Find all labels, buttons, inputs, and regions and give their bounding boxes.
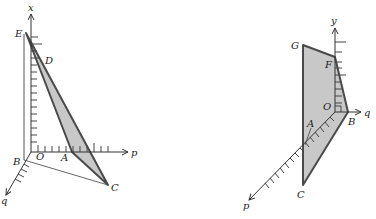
point-label-e: E: [14, 28, 23, 39]
diagram-canvas: x E D O A C B p q: [0, 0, 376, 219]
p-axis-label: p: [131, 147, 138, 158]
point-label-f: F: [324, 59, 333, 70]
point-label-d: D: [44, 55, 53, 66]
y-axis-label: y: [330, 15, 337, 26]
point-label-a: A: [60, 152, 68, 163]
x-axis-label: x: [28, 2, 34, 13]
origin-label-right: O: [323, 101, 331, 112]
point-label-g: G: [291, 40, 299, 51]
left-diagram: x E D O A C B p q: [1, 2, 138, 206]
p-axis-right: [249, 112, 335, 200]
point-label-a-right: A: [306, 118, 314, 129]
q-axis-label-right: q: [364, 107, 370, 118]
point-label-c: C: [111, 182, 119, 193]
right-diagram: y G F O q B A C p: [243, 15, 370, 211]
point-label-b: B: [12, 156, 20, 167]
point-label-c-right: C: [297, 189, 305, 200]
origin-label-left: O: [36, 151, 44, 162]
point-label-b-right: B: [347, 116, 355, 127]
p-axis-label-right: p: [243, 200, 250, 211]
q-axis-label: q: [1, 195, 7, 206]
